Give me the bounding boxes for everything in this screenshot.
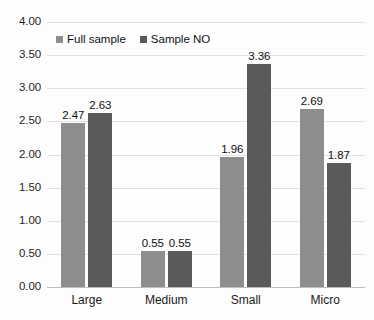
legend-swatch-icon <box>140 36 147 43</box>
bar-value-label: 1.87 <box>319 149 359 161</box>
y-axis-tick-label: 1.50 <box>7 182 41 194</box>
bar-group: 1.963.36 <box>206 22 286 287</box>
bar[interactable] <box>300 109 324 287</box>
axis-baseline <box>47 287 365 288</box>
legend-label: Full sample <box>67 33 126 45</box>
bar[interactable] <box>327 163 351 287</box>
bar-value-label: 0.55 <box>160 237 200 249</box>
legend-item-sample-no[interactable]: Sample NO <box>140 33 210 45</box>
x-axis-category-label: Small <box>206 293 286 307</box>
x-axis-category-label: Large <box>47 293 127 307</box>
y-axis-tick-label: 2.50 <box>7 115 41 127</box>
bar[interactable] <box>61 123 85 287</box>
x-axis-category-label: Medium <box>126 293 206 307</box>
legend: Full sample Sample NO <box>56 33 210 45</box>
x-axis-category-label: Micro <box>285 293 365 307</box>
bar[interactable] <box>141 251 165 287</box>
y-axis-tick-label: 3.50 <box>7 49 41 61</box>
bar-chart: 4.003.503.002.502.001.501.000.500.00 2.4… <box>0 0 374 320</box>
y-axis-tick-label: 3.00 <box>7 82 41 94</box>
bar-value-label: 1.96 <box>212 143 252 155</box>
legend-label: Sample NO <box>151 33 210 45</box>
bar[interactable] <box>220 157 244 287</box>
bar-group: 0.550.55 <box>127 22 207 287</box>
bar-value-label: 2.69 <box>292 95 332 107</box>
y-axis-tick-label: 0.50 <box>7 248 41 260</box>
bar-value-label: 3.36 <box>239 50 279 62</box>
y-axis-tick-label: 2.00 <box>7 149 41 161</box>
bar[interactable] <box>247 64 271 287</box>
bar-value-label: 2.47 <box>53 109 93 121</box>
bar-value-label: 2.63 <box>80 99 120 111</box>
y-axis-tick-label: 4.00 <box>7 16 41 28</box>
legend-swatch-icon <box>56 36 63 43</box>
bar-group: 2.472.63 <box>47 22 127 287</box>
bar-group: 2.691.87 <box>286 22 366 287</box>
y-axis-tick-label: 1.00 <box>7 215 41 227</box>
bar[interactable] <box>88 113 112 287</box>
legend-item-full-sample[interactable]: Full sample <box>56 33 126 45</box>
y-axis-tick-label: 0.00 <box>7 281 41 293</box>
bar[interactable] <box>168 251 192 287</box>
plot-area: 2.472.630.550.551.963.362.691.87 <box>47 22 365 287</box>
